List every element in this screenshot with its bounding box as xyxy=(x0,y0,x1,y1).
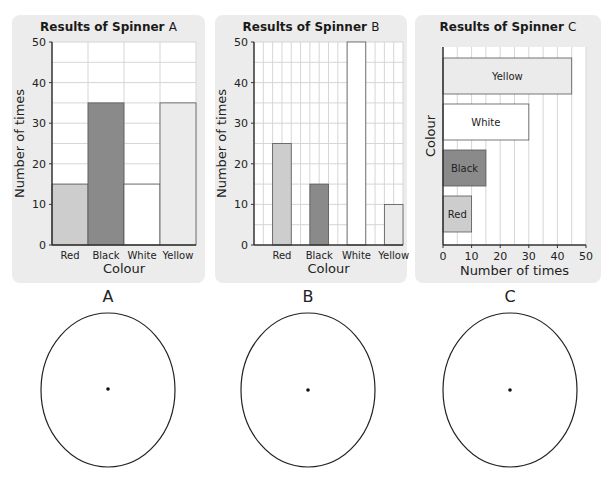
spinner-centre-dot xyxy=(508,388,512,392)
spinner-centre-dot xyxy=(306,388,310,392)
spinner-circles xyxy=(0,0,612,488)
spinner-circle-c xyxy=(443,313,577,467)
spinner-circle-b xyxy=(241,313,375,467)
spinner-circle-a xyxy=(41,313,175,467)
spinner-centre-dot xyxy=(106,387,110,391)
